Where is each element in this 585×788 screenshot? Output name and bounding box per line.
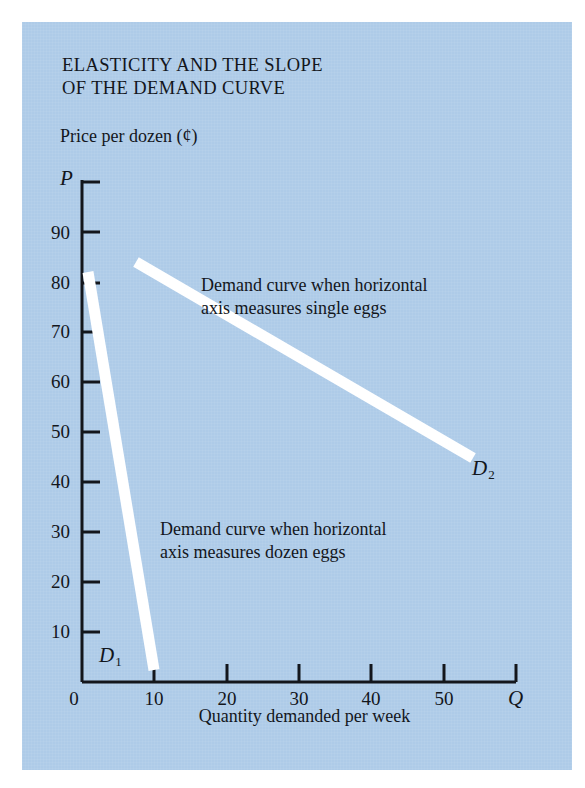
curve-label-d1-letter: D [99,643,114,667]
plot-area [0,0,585,788]
y-tick-label-10: 10 [36,621,70,643]
x-tick-marks [154,664,516,682]
y-tick-label-80: 80 [36,272,70,294]
y-tick-marks [82,182,100,632]
y-tick-label-50: 50 [36,421,70,443]
y-tick-label-20: 20 [36,571,70,593]
annotation-single-eggs-line-1: Demand curve when horizontal [201,274,427,297]
y-tick-label-30: 30 [36,521,70,543]
y-tick-label-90: 90 [36,222,70,244]
figure-root: ELASTICITY AND THE SLOPE OF THE DEMAND C… [0,0,585,788]
x-axis-label: Quantity demanded per week [0,706,585,727]
curve-label-d2-subscript: 2 [488,467,495,482]
curve-label-d1-subscript: 1 [115,654,122,669]
curve-label-d2-letter: D [472,456,487,480]
annotation-single-eggs-line-2: axis measures single eggs [201,297,427,320]
annotation-dozen-eggs: Demand curve when horizontal axis measur… [160,518,386,563]
y-tick-label-60: 60 [36,371,70,393]
y-axis-symbol: P [60,166,73,191]
annotation-single-eggs: Demand curve when horizontal axis measur… [201,274,427,319]
curve-label-d1: D1 [99,643,121,668]
demand-curve-d1 [88,272,154,670]
annotation-dozen-eggs-line-1: Demand curve when horizontal [160,518,386,541]
curve-label-d2: D2 [472,456,494,481]
annotation-dozen-eggs-line-2: axis measures dozen eggs [160,541,386,564]
y-tick-label-40: 40 [36,471,70,493]
y-tick-label-70: 70 [36,321,70,343]
